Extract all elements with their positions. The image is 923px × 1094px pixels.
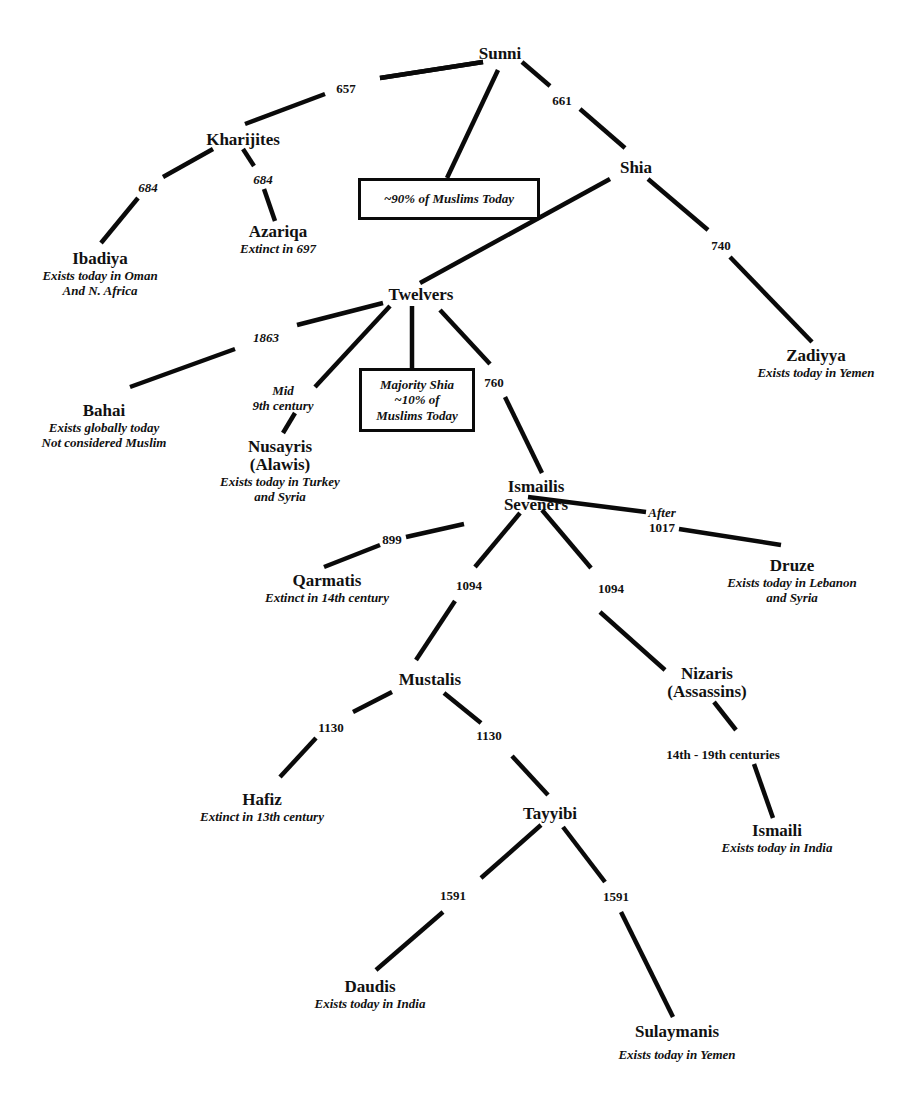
edge-label-ismailis-druze: After 1017 — [648, 506, 675, 536]
node-name: Qarmatis — [265, 572, 389, 590]
edge-label-kharijites-azariqa: 684 — [253, 173, 273, 188]
edge-label-line: After — [648, 506, 675, 521]
node-note: Extinct in 14th century — [265, 590, 389, 606]
edge-label-ismailis-nizaris: 1094 — [598, 582, 624, 597]
node-twelvers: Twelvers — [389, 286, 454, 304]
edge-label-nizaris-ismaili: 14th - 19th centuries — [666, 748, 780, 763]
sunni-share-box: ~90% of Muslims Today — [358, 178, 540, 220]
edge-label-mustalis-tayyibi: 1130 — [476, 729, 501, 744]
edge-label-twelvers-bahai: 1863 — [253, 331, 279, 346]
node-name-alt: (Assassins) — [667, 683, 746, 701]
node-shia: Shia — [620, 159, 652, 177]
node-nusayris: Nusayris (Alawis) Exists today in Turkey… — [220, 438, 340, 505]
node-name: Twelvers — [389, 286, 454, 304]
edge-label-twelvers-ismailis: 760 — [484, 376, 504, 391]
node-note: Not considered Muslim — [42, 435, 167, 451]
edge-label-sunni-shia: 661 — [552, 94, 572, 109]
node-name: Druze — [727, 557, 857, 575]
node-name: Zadiyya — [757, 347, 874, 365]
edge-label-line: 9th century — [252, 399, 313, 414]
node-name: Nusayris — [220, 438, 340, 456]
node-note: Exists today in India — [722, 840, 833, 856]
node-note: Exists today in Yemen — [757, 365, 874, 381]
node-note: and Syria — [727, 590, 857, 606]
node-name-alt: Seveners — [504, 496, 568, 514]
edge-label-tayyibi-sulaymanis: 1591 — [603, 890, 629, 905]
node-note: Extinct in 697 — [240, 241, 316, 257]
node-name: Sulaymanis — [618, 1023, 735, 1041]
node-note: And N. Africa — [42, 283, 157, 299]
node-ismaili: Ismaili Exists today in India — [722, 822, 833, 855]
node-note: Exists today in Yemen — [618, 1047, 735, 1063]
sect-family-tree-diagram: Sunni Kharijites Ibadiya Exists today in… — [0, 0, 923, 1094]
node-kharijites: Kharijites — [206, 131, 280, 149]
node-name: Mustalis — [399, 671, 461, 689]
edge-label-sunni-kharijites: 657 — [336, 82, 356, 97]
box-text: Muslims Today — [362, 408, 472, 424]
node-tayyibi: Tayyibi — [523, 805, 577, 823]
edge-label-twelvers-nusayris: Mid 9th century — [252, 384, 313, 414]
node-name: Daudis — [315, 978, 426, 996]
node-name-alt: (Alawis) — [220, 456, 340, 474]
node-name: Kharijites — [206, 131, 280, 149]
edge-label-kharijites-ibadiya: 684 — [138, 181, 158, 196]
edge-label-ismailis-qarmatis: 899 — [382, 533, 402, 548]
node-name: Sunni — [479, 45, 522, 63]
edge-label-shia-zadiyya: 740 — [711, 239, 731, 254]
node-name: Nizaris — [667, 665, 746, 683]
box-text: ~10% of — [362, 392, 472, 408]
node-qarmatis: Qarmatis Extinct in 14th century — [265, 572, 389, 605]
node-name: Ismailis — [504, 478, 568, 496]
node-ibadiya: Ibadiya Exists today in Oman And N. Afri… — [42, 250, 157, 299]
node-name: Bahai — [42, 402, 167, 420]
node-azariqa: Azariqa Extinct in 697 — [240, 223, 316, 256]
twelvers-share-box: Majority Shia ~10% of Muslims Today — [359, 368, 475, 432]
node-bahai: Bahai Exists globally today Not consider… — [42, 402, 167, 451]
node-note: and Syria — [220, 489, 340, 505]
edge-label-tayyibi-daudis: 1591 — [440, 889, 466, 904]
node-note: Exists today in India — [315, 996, 426, 1012]
node-druze: Druze Exists today in Lebanon and Syria — [727, 557, 857, 606]
node-name: Hafiz — [200, 791, 324, 809]
node-note: Exists today in Oman — [42, 268, 157, 284]
node-name: Azariqa — [240, 223, 316, 241]
node-name: Tayyibi — [523, 805, 577, 823]
edge-label-mustalis-hafiz: 1130 — [318, 721, 343, 736]
node-name: Ismaili — [722, 822, 833, 840]
node-zadiyya: Zadiyya Exists today in Yemen — [757, 347, 874, 380]
node-mustalis: Mustalis — [399, 671, 461, 689]
box-text: ~90% of Muslims Today — [361, 191, 537, 207]
edge-label-ismailis-mustalis: 1094 — [456, 579, 482, 594]
node-name: Shia — [620, 159, 652, 177]
node-hafiz: Hafiz Extinct in 13th century — [200, 791, 324, 824]
node-note: Exists today in Turkey — [220, 474, 340, 490]
edge-label-line: Mid — [252, 384, 313, 399]
connector-lines — [0, 0, 923, 1094]
node-daudis: Daudis Exists today in India — [315, 978, 426, 1011]
node-ismailis: Ismailis Seveners — [504, 478, 568, 514]
node-note: Extinct in 13th century — [200, 809, 324, 825]
box-text: Majority Shia — [362, 377, 472, 393]
node-sulaymanis: Sulaymanis Exists today in Yemen — [618, 1023, 735, 1062]
node-sunni: Sunni — [479, 45, 522, 63]
node-nizaris: Nizaris (Assassins) — [667, 665, 746, 701]
node-note: Exists globally today — [42, 420, 167, 436]
node-note: Exists today in Lebanon — [727, 575, 857, 591]
node-name: Ibadiya — [42, 250, 157, 268]
edge-label-line: 1017 — [648, 521, 675, 536]
